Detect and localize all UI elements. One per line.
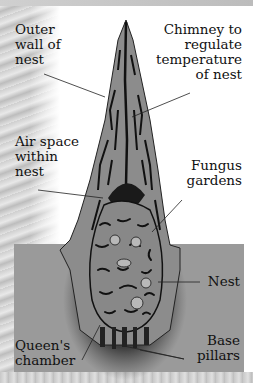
label-line: Nest (208, 274, 240, 289)
label-nest: Nest (208, 274, 240, 289)
label-line: temperature (156, 52, 242, 67)
label-line: wall of (15, 37, 61, 52)
label-fungus-gardens: Fungus gardens (187, 158, 242, 188)
label-outer-wall: Outer wall of nest (15, 22, 61, 67)
label-line: chamber (15, 353, 75, 368)
label-line: gardens (187, 173, 242, 188)
label-line: within (15, 149, 79, 164)
label-line: Air space (15, 134, 79, 149)
label-base-pillars: Base pillars (197, 333, 240, 363)
label-line: nest (15, 52, 61, 67)
label-queens-chamber: Queen's chamber (15, 338, 75, 368)
label-line: Chimney to (156, 22, 242, 37)
label-line: Queen's (15, 338, 75, 353)
label-line: of nest (156, 67, 242, 82)
label-line: nest (15, 164, 79, 179)
chimney-shaft (125, 22, 127, 185)
label-line: Fungus (187, 158, 242, 173)
label-line: pillars (197, 348, 240, 363)
label-line: Base (197, 333, 240, 348)
label-line: Outer (15, 22, 61, 37)
label-chimney: Chimney to regulate temperature of nest (156, 22, 242, 82)
label-line: regulate (156, 37, 242, 52)
label-air-space: Air space within nest (15, 134, 79, 179)
